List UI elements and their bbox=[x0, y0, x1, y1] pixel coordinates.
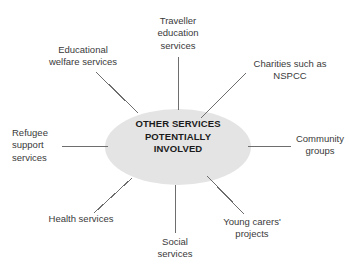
node-label-young-carers-projects: Young carers' projects bbox=[213, 216, 291, 241]
node-label-social-services: Social services bbox=[143, 236, 207, 261]
node-line-social-2: services bbox=[143, 248, 207, 260]
spoke-line-young-carers-projects bbox=[207, 176, 244, 214]
node-line-health-1: Health services bbox=[38, 213, 124, 225]
node-line-refugee-1: Refugee bbox=[12, 127, 62, 139]
node-line-traveller-2: education bbox=[128, 27, 228, 39]
node-line-community-2: groups bbox=[292, 145, 348, 157]
node-line-educational-2: welfare services bbox=[28, 56, 138, 68]
spoke-line-health-services bbox=[94, 178, 132, 213]
node-label-refugee-support-services: Refugee support services bbox=[12, 127, 62, 164]
hub-label-line-1: OTHER SERVICES bbox=[106, 118, 250, 131]
node-line-traveller-3: services bbox=[128, 40, 228, 52]
spoke-line-educational-welfare-services bbox=[96, 72, 138, 113]
node-line-young-carers-1: Young carers' bbox=[213, 216, 291, 228]
node-line-educational-1: Educational bbox=[28, 44, 138, 56]
node-label-charities-such-as-nspcc: Charities such as NSPCC bbox=[237, 58, 343, 83]
node-line-young-carers-2: projects bbox=[213, 228, 291, 240]
node-line-charities-1: Charities such as bbox=[237, 58, 343, 70]
radial-spoke-diagram: OTHER SERVICES POTENTIALLY INVOLVED Trav… bbox=[0, 0, 349, 277]
hub-label-line-3: INVOLVED bbox=[106, 143, 250, 156]
node-line-traveller-1: Traveller bbox=[128, 15, 228, 27]
hub-label-line-2: POTENTIALLY bbox=[106, 131, 250, 144]
node-label-health-services: Health services bbox=[38, 213, 124, 225]
node-line-social-1: Social bbox=[143, 236, 207, 248]
node-line-refugee-3: services bbox=[12, 152, 62, 164]
node-line-charities-2: NSPCC bbox=[237, 70, 343, 82]
hub-label: OTHER SERVICES POTENTIALLY INVOLVED bbox=[106, 118, 250, 156]
node-line-refugee-2: support bbox=[12, 139, 62, 151]
node-line-community-1: Community bbox=[292, 133, 348, 145]
node-label-community-groups: Community groups bbox=[292, 133, 348, 158]
node-label-educational-welfare-services: Educational welfare services bbox=[28, 44, 138, 69]
node-label-traveller-education-services: Traveller education services bbox=[128, 15, 228, 52]
